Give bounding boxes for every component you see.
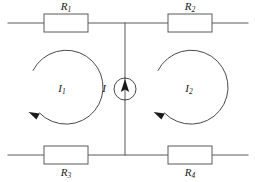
resistor-r3: R3 [44, 146, 88, 180]
resistor-r1-body [44, 14, 88, 32]
resistor-r2-label: R2 [184, 0, 196, 14]
resistor-r1: R1 [44, 0, 88, 32]
circuit-svg: R1 R2 R3 R4 I [0, 0, 255, 182]
resistor-r4-label: R4 [184, 166, 196, 180]
resistor-r2: R2 [168, 0, 212, 32]
current-source-label: I [101, 82, 107, 94]
resistor-r3-body [44, 146, 88, 164]
mesh-loop-i1-arc [33, 50, 103, 124]
mesh-loop-i1: I1 [29, 50, 103, 124]
circuit-diagram: R1 R2 R3 R4 I [0, 0, 255, 182]
mesh-loop-i1-arrowhead-icon [29, 112, 40, 120]
mesh-loop-i1-label: I1 [57, 82, 65, 96]
resistor-r1-label: R1 [60, 0, 71, 14]
resistor-r3-label: R3 [60, 166, 72, 180]
mesh-loop-i2: I2 [154, 50, 228, 124]
resistor-r2-body [168, 14, 212, 32]
current-source: I [101, 78, 136, 100]
mesh-loop-i2-label: I2 [184, 82, 193, 96]
mesh-loop-i2-arrowhead-icon [154, 112, 165, 120]
mesh-loop-i2-arc [158, 50, 228, 124]
resistor-r4-body [168, 146, 212, 164]
resistor-r4: R4 [168, 146, 212, 180]
